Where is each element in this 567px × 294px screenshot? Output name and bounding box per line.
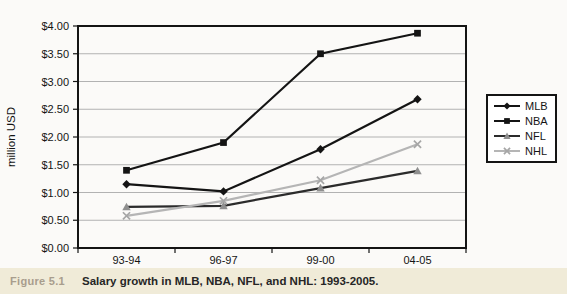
x-tick-label: 93-94 <box>112 254 140 266</box>
figure-number-label: Figure 5.1 <box>10 275 65 287</box>
y-tick-label: $3.00 <box>41 76 69 88</box>
figure-caption-text: Salary growth in MLB, NBA, NFL, and NHL:… <box>82 275 379 287</box>
legend-triangle-marker-icon <box>494 130 520 142</box>
series-marker-NBA <box>317 50 324 57</box>
y-tick-label: $0.50 <box>41 214 69 226</box>
legend-x-marker-icon <box>494 145 520 157</box>
y-tick-label: $3.50 <box>41 48 69 60</box>
legend-label-NBA: NBA <box>525 115 548 127</box>
legend-label-MLB: MLB <box>525 100 548 112</box>
legend-square-marker-icon <box>494 115 520 127</box>
y-tick-label: $4.00 <box>41 20 69 32</box>
book-figure-page: $0.00$0.50$1.00$1.50$2.00$2.50$3.00$3.50… <box>0 0 567 294</box>
series-line-NFL <box>127 171 418 207</box>
legend-label-NFL: NFL <box>525 130 546 142</box>
legend-marker-glyph <box>503 102 510 109</box>
legend-item-NFL: NFL <box>494 130 548 142</box>
x-tick-label: 99-00 <box>306 254 334 266</box>
chart-canvas: $0.00$0.50$1.00$1.50$2.00$2.50$3.00$3.50… <box>0 0 567 268</box>
series-marker-MLB <box>316 145 324 153</box>
y-tick-label: $1.00 <box>41 187 69 199</box>
figure-caption: Figure 5.1 Salary growth in MLB, NBA, NF… <box>0 268 567 294</box>
legend-diamond-marker-icon <box>494 100 520 112</box>
series-marker-MLB <box>413 95 421 103</box>
series-marker-MLB <box>219 187 227 195</box>
y-tick-label: $1.50 <box>41 159 69 171</box>
legend-label-NHL: NHL <box>525 145 547 157</box>
x-tick-label: 96-97 <box>209 254 237 266</box>
legend-marker-glyph <box>504 118 510 124</box>
y-axis-title: million USD <box>5 107 17 167</box>
series-marker-NBA <box>123 167 130 174</box>
series-marker-MLB <box>122 180 130 188</box>
legend-item-NHL: NHL <box>494 145 548 157</box>
legend-item-NBA: NBA <box>494 115 548 127</box>
x-tick-label: 04-05 <box>403 254 431 266</box>
y-tick-label: $2.50 <box>41 103 69 115</box>
y-tick-label: $0.00 <box>41 242 69 254</box>
series-marker-NBA <box>220 139 227 146</box>
salary-growth-chart: $0.00$0.50$1.00$1.50$2.00$2.50$3.00$3.50… <box>0 0 567 268</box>
chart-legend: MLBNBANFLNHL <box>486 94 557 163</box>
y-tick-label: $2.00 <box>41 131 69 143</box>
series-line-NHL <box>127 144 418 216</box>
legend-item-MLB: MLB <box>494 100 548 112</box>
series-marker-NBA <box>414 30 421 37</box>
